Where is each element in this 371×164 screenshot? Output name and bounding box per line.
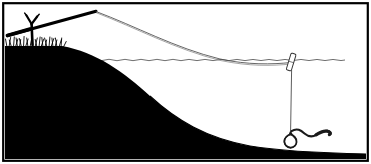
fishing-rig-illustration: Float fishing rig on a steep bank [0,0,371,164]
illustration-canvas: Float fishing rig on a steep bank [0,0,371,164]
